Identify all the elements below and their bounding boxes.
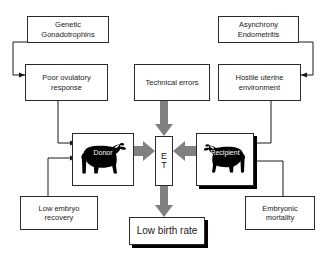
node-embryonic-mortality-label: Embryonic mortality: [262, 204, 297, 223]
node-et[interactable]: E T: [155, 136, 173, 186]
block-arrow-et-to-birth: [155, 186, 173, 217]
node-technical-errors-label: Technical errors: [146, 78, 199, 87]
node-technical-errors[interactable]: Technical errors: [134, 64, 210, 101]
node-low-embryo-recovery-label: Low embryo recovery: [39, 204, 80, 223]
node-genetic[interactable]: Genetic Gonadotrophins: [27, 16, 109, 43]
node-low-embryo-recovery[interactable]: Low embryo recovery: [20, 196, 98, 230]
cow-icon: [200, 137, 250, 182]
node-et-label: E T: [161, 152, 167, 171]
node-donor[interactable]: Donor: [72, 133, 134, 186]
node-embryonic-mortality[interactable]: Embryonic mortality: [245, 196, 315, 230]
block-arrow-recipient-to-et: [173, 141, 196, 161]
node-genetic-label: Genetic Gonadotrophins: [41, 20, 94, 39]
node-recipient[interactable]: Recipient: [196, 133, 254, 186]
node-low-birth-rate-label: Low birth rate: [137, 225, 198, 238]
node-hostile-uterine-environment-label: Hostile uterine environment: [236, 73, 284, 92]
donor-cow-figure: Donor: [76, 137, 130, 182]
node-asynchrony[interactable]: Asynchrony Endometritis: [218, 16, 299, 43]
recipient-cow-figure: Recipient: [200, 137, 250, 182]
node-low-birth-rate[interactable]: Low birth rate: [129, 217, 205, 245]
cow-icon: [76, 137, 130, 182]
diagram-canvas: Genetic Gonadotrophins Asynchrony Endome…: [0, 0, 327, 268]
node-poor-ovulatory-response-label: Poor ovulatory response: [42, 73, 90, 92]
node-hostile-uterine-environment[interactable]: Hostile uterine environment: [218, 64, 301, 101]
node-poor-ovulatory-response[interactable]: Poor ovulatory response: [25, 64, 108, 101]
block-arrow-donor-to-et: [132, 141, 155, 161]
node-asynchrony-label: Asynchrony Endometritis: [238, 20, 280, 39]
block-arrow-technical-to-et: [155, 101, 173, 136]
